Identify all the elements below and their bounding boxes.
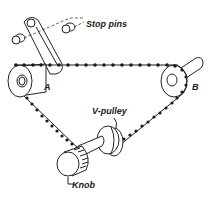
stop-pin-right bbox=[62, 23, 75, 33]
v-pulley-label: V-pulley bbox=[92, 106, 128, 116]
pulley-b-label: B bbox=[192, 82, 199, 92]
knob bbox=[57, 146, 88, 176]
knob-label: Knob bbox=[72, 180, 95, 190]
v-pulley-leader bbox=[114, 118, 117, 128]
pulley-a bbox=[8, 64, 46, 97]
ball-chain-drive-diagram: Stop pins A B bbox=[0, 0, 212, 198]
stop-pins-label: Stop pins bbox=[86, 19, 127, 29]
stop-pin-left bbox=[12, 34, 25, 44]
pulley-a-label: A bbox=[43, 82, 51, 92]
